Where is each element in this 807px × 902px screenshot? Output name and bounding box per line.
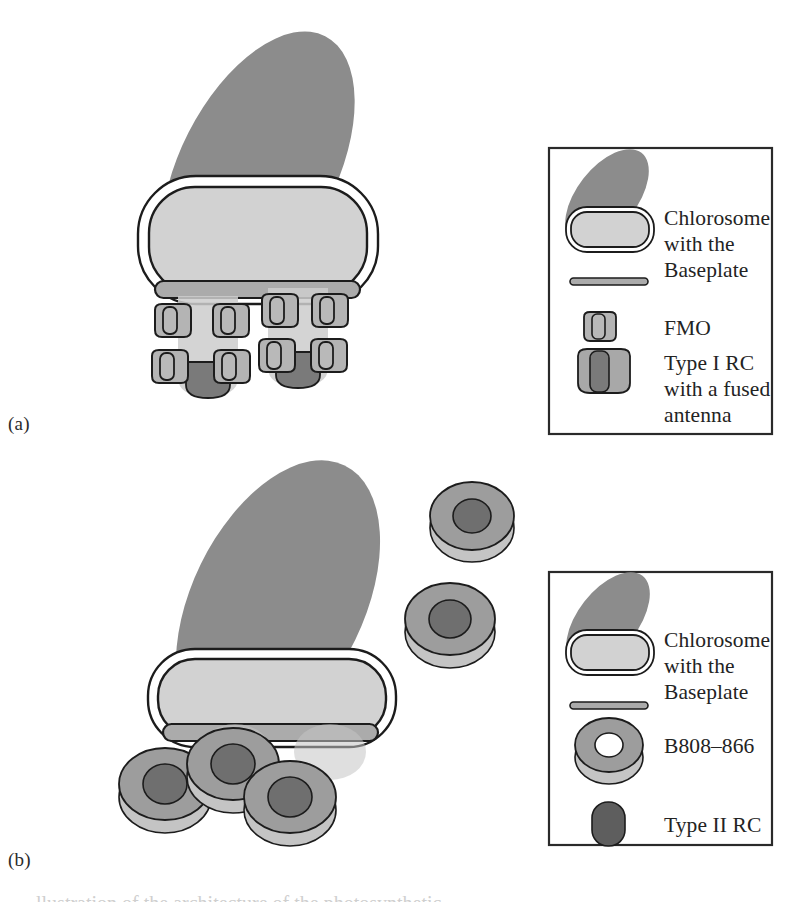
legend-a-item-0-label: Chlorosome with the [664,205,770,257]
legend-b-item-2-label: B808–866 [664,733,754,759]
fmo-unit [213,304,249,337]
legend-type-i-rc-glyph-a [578,349,630,393]
fmo-unit [152,350,188,383]
legend-chlorosome-glyph-a [549,134,665,259]
legend-baseplate-glyph-a [570,278,648,285]
fmo-unit [311,339,347,372]
rc-assembly-left-a [152,296,250,398]
caption-strip: llustration of the architecture of the p… [0,892,807,902]
fmo-unit [155,304,191,337]
fmo-unit [312,294,348,327]
legend-a-item-1-label: Baseplate [664,257,748,283]
panel-a-label: (a) [8,413,30,435]
b808-866-complex [244,761,336,846]
b808-866-complex [405,583,495,668]
legend-b-item-1-label: Baseplate [664,679,748,705]
panel-b-label: (b) [8,849,31,871]
legend-baseplate-glyph-b [570,702,648,709]
caption-partial-text: llustration of the architecture of the p… [36,892,807,902]
fmo-unit [259,339,295,372]
legend-type-ii-rc-glyph-b [592,802,625,846]
legend-a-item-3-label: Type I RC with a fused antenna [664,350,770,428]
fmo-unit [262,294,298,327]
legend-b-item-3-label: Type II RC [664,812,761,838]
legend-a-item-2-label: FMO [664,315,711,341]
b808-866-complex [388,481,514,562]
rc-assembly-right-a [259,288,348,388]
fmo-unit [214,350,250,383]
legend-fmo-glyph-a [584,312,616,341]
figure-root: Chlorosome with the Baseplate FMO Type I… [0,0,807,902]
legend-chlorosome-glyph-b [550,557,666,682]
legend-b808-866-glyph-b [575,718,643,784]
legend-b-item-0-label: Chlorosome with the [664,627,770,679]
